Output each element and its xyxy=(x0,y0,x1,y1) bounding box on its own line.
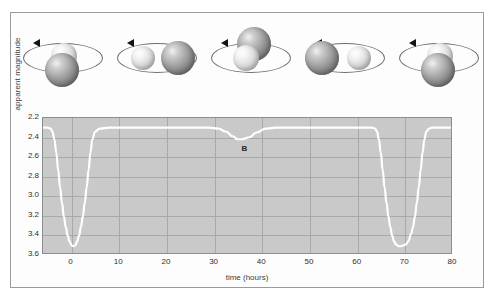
bright-star-icon xyxy=(347,46,371,70)
dim-star-icon xyxy=(305,41,339,75)
orbit-direction-arrow-icon xyxy=(33,39,40,47)
dim-star-icon xyxy=(421,53,455,87)
y-tick-label: 2.4 xyxy=(13,132,39,141)
bright-star-icon xyxy=(233,45,259,71)
orbit-panel-3-secondary-eclipse xyxy=(207,27,295,99)
x-tick-label: 10 xyxy=(106,257,130,266)
x-tick-label: 70 xyxy=(392,257,416,266)
curve-annotation-a: A xyxy=(75,251,81,254)
dim-star-icon xyxy=(45,53,79,87)
orbit-panel-1-primary-eclipse xyxy=(19,27,107,99)
bright-star-icon xyxy=(131,46,155,70)
orbit-direction-arrow-icon xyxy=(127,39,134,47)
orbit-panel-2-quadrature-left xyxy=(113,27,201,99)
orbit-diagram-strip xyxy=(11,13,485,103)
dim-star-icon xyxy=(161,41,195,75)
x-tick-label: 50 xyxy=(297,257,321,266)
y-tick-label: 2.2 xyxy=(13,112,39,121)
y-tick-label: 3.2 xyxy=(13,210,39,219)
y-tick-label: 3.0 xyxy=(13,190,39,199)
plot-area: ABA xyxy=(42,117,452,254)
y-tick-label: 2.8 xyxy=(13,171,39,180)
x-tick-label: 40 xyxy=(249,257,273,266)
y-tick-label: 2.6 xyxy=(13,151,39,160)
x-tick-label: 30 xyxy=(202,257,226,266)
orbit-direction-arrow-icon xyxy=(409,39,416,47)
x-tick-label: 20 xyxy=(154,257,178,266)
y-tick-label: 3.6 xyxy=(13,249,39,258)
x-axis-title: time (hours) xyxy=(42,273,452,282)
orbit-direction-arrow-icon xyxy=(221,39,228,47)
light-curve-line xyxy=(43,118,451,253)
x-tick-label: 0 xyxy=(59,257,83,266)
curve-annotation-b: B xyxy=(241,144,247,153)
x-tick-label: 60 xyxy=(345,257,369,266)
x-tick-label: 80 xyxy=(440,257,464,266)
curve-annotation-a: A xyxy=(408,251,414,254)
orbit-panel-5-primary-eclipse-repeat xyxy=(395,27,483,99)
y-tick-label: 3.4 xyxy=(13,229,39,238)
orbit-panel-4-quadrature-right xyxy=(301,27,389,99)
figure-frame: apparent magnitude 2.22.42.62.83.03.23.4… xyxy=(10,12,484,288)
light-curve-chart: apparent magnitude 2.22.42.62.83.03.23.4… xyxy=(11,103,485,289)
